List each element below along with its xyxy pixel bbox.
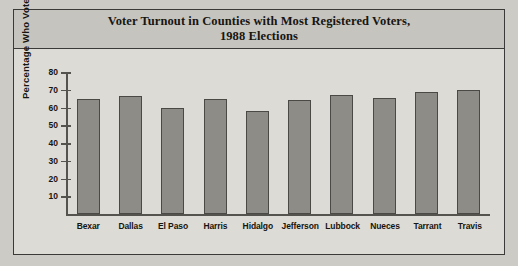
y-axis-tick-label: 60: [49, 103, 58, 113]
axes: 1020304050607080: [66, 72, 490, 215]
y-axis-tick-label: 50: [49, 120, 58, 130]
chart-title-line-1: Voter Turnout in Counties with Most Regi…: [108, 14, 410, 28]
x-axis-label-jefferson: Jefferson: [279, 221, 321, 231]
bar-hidalgo: [246, 111, 269, 214]
bar-jefferson: [288, 100, 311, 214]
y-axis-tick-label: 20: [49, 174, 58, 184]
bar-slot: [194, 72, 236, 214]
page-title: Voter Turnout in Counties with Most Regi…: [98, 14, 420, 44]
y-axis-tick-label: 70: [49, 85, 58, 95]
chart-title-line-2: 1988 Elections: [220, 29, 298, 43]
bar-series: [67, 72, 490, 214]
x-axis-label-hidalgo: Hidalgo: [237, 221, 279, 231]
bar-slot: [109, 72, 151, 214]
bar-harris: [204, 99, 227, 214]
bar-bexar: [77, 99, 100, 214]
bar-nueces: [373, 98, 396, 214]
bar-slot: [321, 72, 363, 214]
x-axis-label-tarrant: Tarrant: [406, 221, 448, 231]
bar-dallas: [119, 96, 142, 214]
x-axis-label-nueces: Nueces: [364, 221, 406, 231]
x-axis-label-dallas: Dallas: [109, 221, 151, 231]
x-axis-line: [66, 214, 490, 216]
bar-slot: [278, 72, 320, 214]
x-axis-label-harris: Harris: [194, 221, 236, 231]
bar-slot: [236, 72, 278, 214]
bar-el-paso: [161, 108, 184, 215]
bar-travis: [457, 90, 480, 214]
bar-slot: [363, 72, 405, 214]
x-axis-label-travis: Travis: [449, 221, 491, 231]
plot-area: Percentage Who Voted 1020304050607080 Be…: [14, 49, 504, 254]
y-axis-tick-label: 10: [49, 191, 58, 201]
y-axis-tick-label: 40: [49, 138, 58, 148]
y-axis-label: Percentage Who Voted: [20, 0, 31, 99]
y-axis-tick-label: 30: [49, 156, 58, 166]
x-axis-tick-labels: BexarDallasEl PasoHarrisHidalgoJefferson…: [67, 221, 491, 231]
bar-slot: [152, 72, 194, 214]
x-axis-label-el-paso: El Paso: [152, 221, 194, 231]
bar-slot: [67, 72, 109, 214]
y-axis-tick-label: 80: [49, 67, 58, 77]
bar-tarrant: [415, 92, 438, 214]
x-axis-label-bexar: Bexar: [67, 221, 109, 231]
bar-lubbock: [330, 95, 353, 214]
bar-slot: [448, 72, 490, 214]
bar-slot: [405, 72, 447, 214]
chart-title-bar: Voter Turnout in Counties with Most Regi…: [14, 10, 504, 49]
x-axis-label-lubbock: Lubbock: [321, 221, 363, 231]
chart-frame: Voter Turnout in Counties with Most Regi…: [13, 9, 505, 255]
